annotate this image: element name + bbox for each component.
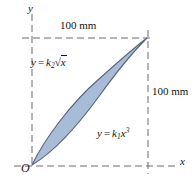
lower-curve-exponent: 3 — [126, 126, 130, 135]
radical-icon: √ — [55, 56, 61, 68]
x-axis-label: x — [180, 156, 185, 167]
origin-label: O — [21, 162, 30, 174]
upper-curve-radicand: x — [61, 55, 67, 68]
y-axis-label: y — [28, 3, 33, 14]
figure-container: y=k2√x y=k1x3 100 mm 100 mm y x O — [0, 0, 194, 190]
lower-curve-equation-label: y=k1x3 — [97, 127, 129, 140]
upper-curve-equation-label: y=k2√x — [31, 57, 67, 70]
upper-curve-equals: = — [36, 56, 46, 68]
top-dimension-label: 100 mm — [60, 20, 96, 31]
right-dimension-label: 100 mm — [152, 86, 188, 97]
lower-curve-equals: = — [102, 127, 112, 139]
